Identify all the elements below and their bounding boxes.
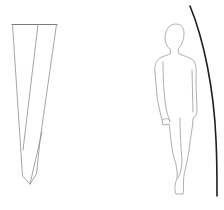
column-left-side bbox=[13, 25, 31, 185]
figure-leg-divider bbox=[178, 118, 182, 178]
figure-left-arm-line bbox=[163, 62, 170, 122]
figure-right-arm-line bbox=[192, 70, 193, 112]
illustration-canvas bbox=[0, 0, 224, 210]
column-right-side bbox=[30, 25, 57, 185]
twisted-column-drawing bbox=[12, 25, 57, 185]
human-figure-drawing bbox=[155, 24, 197, 194]
curved-arc-line bbox=[190, 6, 217, 196]
column-inner-twist-lower bbox=[30, 132, 42, 184]
figure-outline bbox=[155, 24, 197, 194]
column-inner-twist bbox=[23, 25, 38, 151]
